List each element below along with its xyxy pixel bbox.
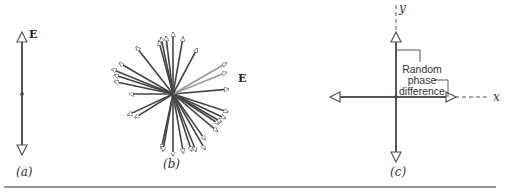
y-axis-label: y <box>398 1 406 15</box>
panel-b: E (b) <box>112 32 247 171</box>
arrowhead-up-icon <box>17 32 27 42</box>
caption-c: (c) <box>390 165 406 179</box>
caption-a: (a) <box>16 165 33 179</box>
random-field-vector <box>135 94 173 118</box>
origin-dot <box>20 92 24 96</box>
origin-dot <box>394 95 398 99</box>
polarization-diagram: E (a) E (b) y x Random phase difference … <box>0 0 508 195</box>
panel-a: E (a) <box>16 28 37 179</box>
arrowhead-down-icon <box>391 152 401 162</box>
random-field-vector <box>128 94 173 115</box>
random-field-vector <box>163 94 173 151</box>
annotation-line-3: difference <box>399 85 445 97</box>
caption-b: (b) <box>163 157 180 171</box>
vector-label-b: E <box>238 72 246 85</box>
arrowhead-down-icon <box>17 145 27 155</box>
arrowhead-left-icon <box>330 92 340 102</box>
arrowhead-up-icon <box>391 32 401 42</box>
vector-label-a: E <box>29 28 37 41</box>
panel-c: y x Random phase difference (c) <box>330 1 500 179</box>
bracket-vertical <box>396 50 420 62</box>
x-axis-label: x <box>493 90 500 104</box>
